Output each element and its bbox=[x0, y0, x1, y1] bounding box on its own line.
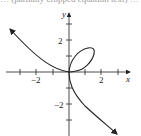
x-tick-label-neg2: −2 bbox=[31, 75, 41, 85]
folium-plot: −2 2 2 −2 x y bbox=[0, 0, 141, 136]
y-axis-label: y bbox=[61, 9, 66, 19]
y-tick-label-neg2: −2 bbox=[54, 100, 64, 110]
y-tick-label-2: 2 bbox=[58, 36, 63, 46]
curve-lower-right-branch bbox=[69, 72, 117, 134]
x-tick-label-2: 2 bbox=[99, 75, 104, 85]
curve-loop bbox=[69, 48, 94, 72]
x-axis-label: x bbox=[125, 74, 130, 84]
